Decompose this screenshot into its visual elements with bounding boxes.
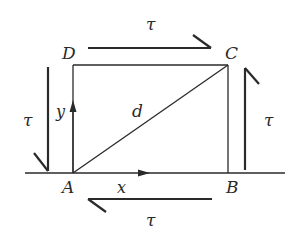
y-axis-label: y [55, 102, 66, 121]
vertex-a-label: A [60, 177, 74, 197]
tau-right-label: τ [264, 110, 274, 130]
x-axis-label: x [117, 178, 126, 197]
vertex-c-label: C [225, 43, 238, 63]
y-axis-arrow-icon [70, 100, 77, 173]
shear-stress-diagram: D C A B d x y τ τ τ τ [0, 0, 299, 241]
vertex-b-label: B [225, 177, 239, 197]
tau-arrow-right-icon [245, 68, 259, 170]
tau-bottom-label: τ [146, 210, 156, 230]
tau-arrow-left-icon [34, 67, 48, 171]
diagonal-label: d [132, 101, 143, 121]
tau-left-label: τ [23, 110, 33, 130]
tau-arrow-top-icon [88, 35, 211, 48]
x-axis-arrow-icon [138, 170, 150, 177]
tau-top-label: τ [146, 14, 156, 34]
diagonal-ac [73, 65, 228, 173]
vertex-d-label: D [61, 43, 76, 63]
